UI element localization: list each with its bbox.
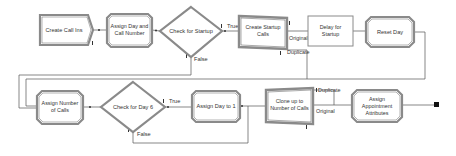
port-dot [98, 29, 100, 31]
node-reset-day[interactable]: Reset Day [366, 17, 414, 47]
label-check-startup: Check for Startup [169, 28, 213, 34]
node-assign-number-of-calls[interactable]: Assign Number of Calls [37, 91, 83, 124]
port-dot [241, 105, 243, 107]
exit-bar [289, 21, 290, 25]
label-create-call-ins: Create Call Ins [46, 27, 83, 33]
exit-bar [316, 88, 317, 92]
label-startup-line1: Create Startup [245, 24, 280, 30]
edge-label-clone-original: Original [316, 108, 335, 114]
edge-label-startup-false: False [194, 56, 208, 62]
node-assign-day-call-number[interactable]: Assign Day and Call Number [107, 14, 152, 47]
node-create-startup-calls[interactable]: Create Startup Calls [239, 16, 287, 49]
node-check-for-startup[interactable]: Check for Startup [160, 7, 222, 57]
edge-label-startup-duplicate: Duplicate [287, 49, 309, 55]
label-delay-line2: Startup [322, 31, 339, 37]
node-clone-up-to-number-of-calls[interactable]: Clone up to Number of Calls [266, 88, 313, 124]
exit-bar [280, 51, 281, 55]
node-assign-day-to-1[interactable]: Assign Day to 1 [192, 91, 240, 122]
label-appt-line1: Assign [369, 96, 385, 102]
edge-label-startup-original: Original [289, 35, 308, 41]
edge-label-day6-true: True [169, 98, 180, 104]
label-clone-line2: Number of Calls [270, 105, 309, 111]
exit-bar [92, 41, 93, 45]
label-clone-line1: Clone up to [276, 98, 304, 104]
label-assign-day-1: Assign Day to 1 [196, 103, 235, 109]
label-check-day6: Check for Day 6 [113, 104, 153, 110]
port-dot [89, 106, 91, 108]
port-dot [155, 30, 157, 32]
label-assign-day-line1: Assign Day and [111, 23, 149, 29]
label-assign-day-line2: Call Number [115, 30, 145, 36]
node-delay-for-startup[interactable]: Delay for Startup [308, 16, 353, 46]
end-terminator[interactable] [434, 102, 439, 107]
node-check-for-day-6[interactable]: Check for Day 6 [101, 82, 165, 132]
label-appt-line3: Attributes [366, 110, 389, 116]
node-create-call-ins[interactable]: Create Call Ins [40, 15, 93, 45]
exit-bar [221, 24, 222, 28]
port-dot [224, 30, 226, 32]
exit-bar [306, 125, 307, 129]
label-appt-line2: Appointment [362, 103, 393, 109]
exit-bar [163, 99, 164, 103]
edge-label-startup-true: True [227, 23, 238, 29]
port-dot [167, 106, 169, 108]
node-assign-appointment-attributes[interactable]: Assign Appointment Attributes [352, 90, 402, 122]
label-reset-day: Reset Day [377, 29, 403, 35]
label-assign-number-line2: of Calls [51, 107, 69, 113]
edge-label-clone-duplicate: Duplicate [318, 87, 340, 93]
label-delay-line1: Delay for [320, 24, 342, 30]
flowchart-canvas: Create Call Ins Assign Day and Call Numb… [0, 0, 456, 156]
edge-label-day6-false: False [137, 131, 151, 137]
label-assign-number-line1: Assign Number [42, 100, 79, 106]
label-startup-line2: Calls [257, 31, 269, 37]
